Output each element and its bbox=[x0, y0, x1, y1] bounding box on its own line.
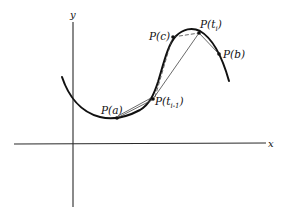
curve-path bbox=[62, 29, 229, 118]
label-p-a: P(a) bbox=[100, 104, 123, 116]
secant-ti-1-to-ti bbox=[153, 33, 199, 99]
point-b bbox=[217, 52, 221, 56]
x-axis bbox=[14, 143, 266, 144]
y-axis-label: y bbox=[69, 9, 76, 20]
label-p-b: P(b) bbox=[222, 48, 245, 60]
x-axis-label: x bbox=[268, 138, 274, 149]
label-p-ti-main: P(t bbox=[199, 18, 216, 30]
label-p-c: P(c) bbox=[148, 30, 170, 42]
label-p-ti-close: ) bbox=[217, 18, 222, 30]
arc-length-diagram: y x P(a) P(ti-1) P(c) P(ti) P(b) bbox=[0, 0, 282, 219]
point-a bbox=[115, 116, 119, 120]
label-p-ti: P(ti) bbox=[199, 18, 222, 33]
secant-ti-to-b bbox=[199, 33, 219, 54]
point-c bbox=[171, 35, 175, 39]
label-p-ti-1: P(ti-1) bbox=[154, 95, 184, 110]
label-p-ti-1-sub: i-1 bbox=[170, 102, 179, 110]
dashed-ti-1-to-c bbox=[155, 39, 172, 97]
label-p-ti-1-main: P(t bbox=[154, 95, 171, 107]
point-ti bbox=[197, 31, 201, 35]
label-p-ti-1-close: ) bbox=[178, 95, 183, 107]
